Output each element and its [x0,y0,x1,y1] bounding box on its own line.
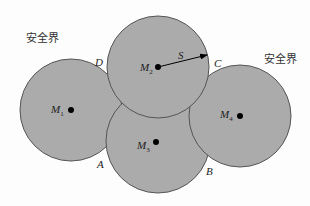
center-dot-m4 [237,113,243,119]
safety-boundary-label-left: 安全界 [26,33,59,44]
point-d-label: D [95,57,103,68]
center-dot-m3 [153,139,159,145]
center-dot-m1 [68,107,74,113]
center-dot-m2 [155,64,161,70]
label-m4: M4 [220,109,233,123]
radius-s-label: S [178,50,184,61]
label-m2: M2 [140,62,153,76]
safety-boundary-label-right: 安全界 [264,54,297,65]
label-m1: M1 [51,104,64,118]
point-c-label: C [214,58,221,69]
label-m3: M3 [137,140,150,154]
diagram-canvas: 安全界 安全界 M1 M2 M3 M4 D C A B S [0,0,310,206]
point-a-label: A [97,159,104,170]
circles-svg [0,0,310,206]
point-b-label: B [206,166,213,177]
